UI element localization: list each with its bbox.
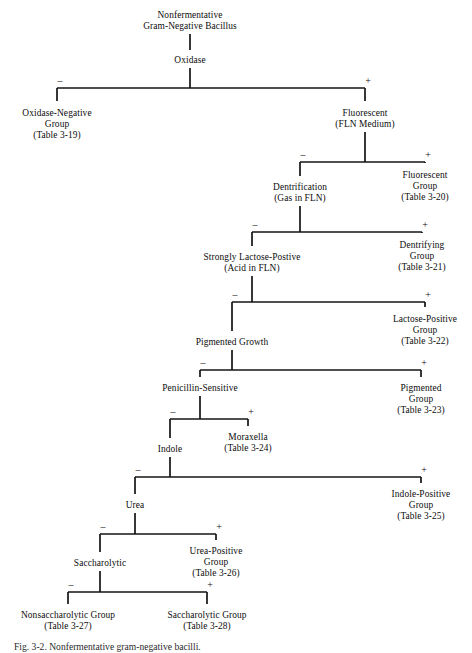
node-dentrification-line: (Gas in FLN) bbox=[273, 193, 327, 204]
branch-sign-penicillin-minus: – bbox=[171, 407, 176, 417]
branch-sign-saccharolytic-plus: + bbox=[207, 580, 213, 590]
node-urea-line: Urea bbox=[126, 500, 145, 511]
branch-sign-dentrification-minus: – bbox=[253, 220, 258, 230]
branch-sign-saccharolytic-minus: – bbox=[69, 580, 74, 590]
node-lactose-pos-group-line: (Table 3-22) bbox=[393, 336, 457, 347]
node-saccharolytic-group[interactable]: Saccharolytic Group(Table 3-28) bbox=[167, 610, 246, 632]
node-fluorescent-group-line: Group bbox=[401, 181, 449, 192]
node-saccharolytic[interactable]: Saccharolytic bbox=[74, 558, 126, 569]
node-nonsaccharolytic-group-line: Nonsaccharolytic Group bbox=[21, 610, 115, 621]
branch-sign-pigment-minus: – bbox=[201, 358, 206, 368]
branch-sign-indole-minus: – bbox=[136, 465, 141, 475]
node-saccharolytic-group-line: Saccharolytic Group bbox=[167, 610, 246, 621]
node-oxidase-neg-group[interactable]: Oxidase-NegativeGroup(Table 3-19) bbox=[22, 108, 91, 142]
node-moraxella[interactable]: Moraxella(Table 3-24) bbox=[224, 432, 272, 454]
node-fluorescent-line: (FLN Medium) bbox=[335, 119, 394, 130]
branch-sign-lactose-plus: + bbox=[425, 290, 431, 300]
node-fluorescent[interactable]: Fluorescent(FLN Medium) bbox=[335, 108, 394, 130]
node-urea-pos-group-line: Group bbox=[190, 557, 243, 568]
branch-sign-pigment-plus: + bbox=[421, 358, 427, 368]
node-oxidase-neg-group-line: (Table 3-19) bbox=[22, 130, 91, 141]
node-pigmented-group-line: (Table 3-23) bbox=[397, 405, 445, 416]
node-root[interactable]: NonfermentativeGram-Negative Bacillus bbox=[143, 10, 237, 32]
node-indole-pos-group[interactable]: Indole-PositiveGroup(Table 3-25) bbox=[392, 489, 451, 523]
node-fluorescent-line: Fluorescent bbox=[335, 108, 394, 119]
node-indole-pos-group-line: Group bbox=[392, 500, 451, 511]
node-dentrification[interactable]: Dentrification(Gas in FLN) bbox=[273, 182, 327, 204]
node-dentrifying-group-line: Group bbox=[398, 251, 446, 262]
node-oxidase-line: Oxidase bbox=[174, 55, 205, 66]
figure-caption: Fig. 3-2. Nonfermentative gram-negative … bbox=[14, 641, 201, 652]
node-indole-line: Indole bbox=[158, 444, 183, 455]
node-strongly-lactose-line: Strongly Lactose-Postive bbox=[204, 252, 301, 263]
node-penicillin[interactable]: Penicillin-Sensitive bbox=[162, 383, 237, 394]
branch-sign-urea-plus: + bbox=[216, 522, 222, 532]
branch-sign-fluorescent-minus: – bbox=[301, 150, 306, 160]
node-nonsaccharolytic-group-line: (Table 3-27) bbox=[21, 621, 115, 632]
node-oxidase-neg-group-line: Oxidase-Negative bbox=[22, 108, 91, 119]
node-fluorescent-group-line: Fluorescent bbox=[401, 170, 449, 181]
node-dentrification-line: Dentrification bbox=[273, 182, 327, 193]
node-nonsaccharolytic-group[interactable]: Nonsaccharolytic Group(Table 3-27) bbox=[21, 610, 115, 632]
node-pigmented-group-line: Group bbox=[397, 394, 445, 405]
node-strongly-lactose[interactable]: Strongly Lactose-Postive(Acid in FLN) bbox=[204, 252, 301, 274]
node-urea-pos-group[interactable]: Urea-PositiveGroup(Table 3-26) bbox=[190, 546, 243, 580]
node-root-line: Nonfermentative bbox=[143, 10, 237, 21]
branch-sign-urea-minus: – bbox=[101, 522, 106, 532]
node-saccharolytic-line: Saccharolytic bbox=[74, 558, 126, 569]
node-pigmented-group[interactable]: PigmentedGroup(Table 3-23) bbox=[397, 383, 445, 417]
node-dentrifying-group-line: Dentrifying bbox=[398, 240, 446, 251]
node-pigmented-growth[interactable]: Pigmented Growth bbox=[196, 337, 269, 348]
node-oxidase[interactable]: Oxidase bbox=[174, 55, 205, 66]
node-moraxella-line: Moraxella bbox=[224, 432, 272, 443]
node-root-line: Gram-Negative Bacillus bbox=[143, 21, 237, 32]
node-urea[interactable]: Urea bbox=[126, 500, 145, 511]
node-oxidase-neg-group-line: Group bbox=[22, 119, 91, 130]
node-indole-pos-group-line: (Table 3-25) bbox=[392, 511, 451, 522]
node-pigmented-group-line: Pigmented bbox=[397, 383, 445, 394]
node-dentrifying-group[interactable]: DentrifyingGroup(Table 3-21) bbox=[398, 240, 446, 274]
node-penicillin-line: Penicillin-Sensitive bbox=[162, 383, 237, 394]
node-indole[interactable]: Indole bbox=[158, 444, 183, 455]
node-indole-pos-group-line: Indole-Positive bbox=[392, 489, 451, 500]
node-pigmented-growth-line: Pigmented Growth bbox=[196, 337, 269, 348]
node-fluorescent-group[interactable]: FluorescentGroup(Table 3-20) bbox=[401, 170, 449, 204]
node-dentrifying-group-line: (Table 3-21) bbox=[398, 262, 446, 273]
branch-sign-fluorescent-plus: + bbox=[425, 150, 431, 160]
node-saccharolytic-group-line: (Table 3-28) bbox=[167, 621, 246, 632]
node-fluorescent-group-line: (Table 3-20) bbox=[401, 192, 449, 203]
node-moraxella-line: (Table 3-24) bbox=[224, 443, 272, 454]
branch-sign-indole-plus: + bbox=[421, 465, 427, 475]
branch-sign-dentrification-plus: + bbox=[422, 220, 428, 230]
branch-sign-oxidase-plus: + bbox=[365, 76, 371, 86]
node-urea-pos-group-line: Urea-Positive bbox=[190, 546, 243, 557]
node-lactose-pos-group-line: Lactose-Positive bbox=[393, 314, 457, 325]
branch-sign-penicillin-plus: + bbox=[248, 407, 254, 417]
branch-sign-lactose-minus: – bbox=[233, 290, 238, 300]
node-lactose-pos-group-line: Group bbox=[393, 325, 457, 336]
branch-sign-oxidase-minus: – bbox=[58, 76, 63, 86]
node-urea-pos-group-line: (Table 3-26) bbox=[190, 568, 243, 579]
node-strongly-lactose-line: (Acid in FLN) bbox=[204, 263, 301, 274]
node-lactose-pos-group[interactable]: Lactose-PositiveGroup(Table 3-22) bbox=[393, 314, 457, 348]
